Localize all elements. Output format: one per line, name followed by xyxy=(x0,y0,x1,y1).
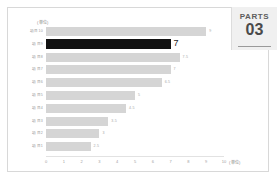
unit-label-right: (単位) xyxy=(229,159,240,165)
bar xyxy=(46,65,171,74)
bar-row: 項目77 xyxy=(46,64,224,76)
x-axis-tick: 6 xyxy=(152,159,154,164)
bar xyxy=(46,27,206,36)
x-axis-tick: 9 xyxy=(205,159,207,164)
bar xyxy=(46,78,162,87)
x-axis-tick: 4 xyxy=(116,159,118,164)
bar-value-label: 3.5 xyxy=(111,119,117,123)
bar-row: 項目109 xyxy=(46,26,224,38)
x-axis-tick: 1 xyxy=(63,159,65,164)
bar-value-label: 2.5 xyxy=(94,144,100,148)
unit-label-top: (単位) xyxy=(37,19,48,25)
bar xyxy=(46,53,180,62)
x-axis-tick: 2 xyxy=(80,159,82,164)
bar xyxy=(46,104,126,113)
bar-highlighted xyxy=(46,39,171,49)
x-axis-tick: 0 xyxy=(45,159,47,164)
bar-category-label: 項目5 xyxy=(32,92,43,97)
bar-row: 項目55 xyxy=(46,90,224,102)
bar-row: 項目23 xyxy=(46,128,224,140)
parts-panel: PARTS 03 xyxy=(231,7,277,50)
bar-category-label: 項目2 xyxy=(32,130,43,135)
x-axis-line xyxy=(46,156,224,157)
bar-value-label: 5 xyxy=(138,93,140,97)
bar-category-label: 項目10 xyxy=(30,28,43,33)
bar-category-label: 項目7 xyxy=(32,66,43,71)
bar-row: 項目12.5 xyxy=(46,141,224,153)
parts-divider xyxy=(238,46,271,47)
bar xyxy=(46,129,99,138)
bar-value-label: 3 xyxy=(102,131,104,135)
bar-row: 項目44.5 xyxy=(46,103,224,115)
bar-category-label: 項目4 xyxy=(32,105,43,110)
bar-category-label: 項目1 xyxy=(32,143,43,148)
bar-category-label: 項目8 xyxy=(32,54,43,59)
bar xyxy=(46,142,91,151)
bar-row: 項目87.5 xyxy=(46,52,224,64)
x-axis-tick: 5 xyxy=(134,159,136,164)
bar-category-label: 項目9 xyxy=(32,41,43,46)
parts-number: 03 xyxy=(232,21,277,38)
bar-category-label: 項目6 xyxy=(32,79,43,84)
x-axis-tick: 10 xyxy=(222,159,226,164)
bar xyxy=(46,117,108,126)
bar-chart: (単位) 項目109項目97項目87.5項目77項目66.5項目55項目44.5… xyxy=(8,8,269,172)
bar xyxy=(46,91,135,100)
bar-value-label: 4.5 xyxy=(129,106,135,110)
x-axis-tick: 7 xyxy=(169,159,171,164)
x-axis-tick: 8 xyxy=(187,159,189,164)
bar-row: 項目66.5 xyxy=(46,77,224,89)
bar-value-label: 6.5 xyxy=(165,80,171,84)
x-axis: (単位) 012345678910 xyxy=(46,156,224,170)
bar-value-label: 7 xyxy=(174,67,176,71)
bar-value-label: 7 xyxy=(174,38,179,48)
bar-value-label: 9 xyxy=(209,29,211,33)
x-axis-tick: 3 xyxy=(98,159,100,164)
parts-label: PARTS xyxy=(232,12,277,21)
chart-page: (単位) 項目109項目97項目87.5項目77項目66.5項目55項目44.5… xyxy=(0,0,277,181)
bar-category-label: 項目3 xyxy=(32,118,43,123)
bar-row: 項目97 xyxy=(46,39,224,51)
bar-value-label: 7.5 xyxy=(183,55,189,59)
bar-row: 項目33.5 xyxy=(46,116,224,128)
plot-area: 項目109項目97項目87.5項目77項目66.5項目55項目44.5項目33.… xyxy=(46,26,224,154)
